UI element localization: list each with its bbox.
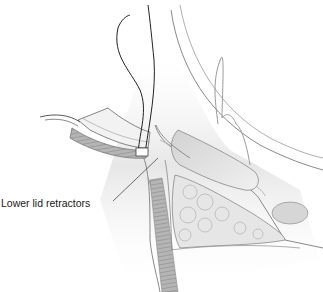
- muscle-oval: [272, 202, 308, 224]
- eyelashes: [40, 115, 80, 122]
- suture-knot: [136, 148, 148, 156]
- anatomical-illustration: Lower lid retractors: [0, 0, 323, 292]
- eyelid-cross-section-drawing: [0, 0, 323, 292]
- label-lower-lid-retractors: Lower lid retractors: [1, 197, 90, 209]
